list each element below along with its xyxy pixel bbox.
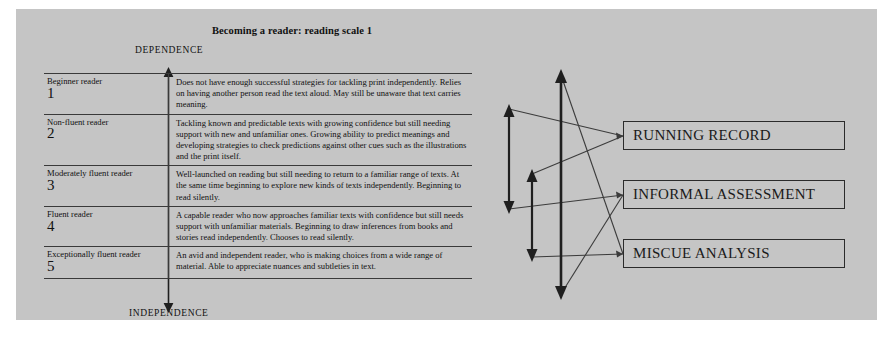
table-row: Moderately fluent reader 3 Well-launched… xyxy=(44,165,472,206)
page-root: Becoming a reader: reading scale 1 DEPEN… xyxy=(0,0,893,343)
range-arrow-full-icon xyxy=(555,69,567,300)
description-cell: A capable reader who now approaches fami… xyxy=(168,207,472,247)
range-arrow-middle-icon xyxy=(527,169,538,262)
level-cell: Exceptionally fluent reader 5 xyxy=(44,247,168,278)
level-description: Well-launched on reading but still needi… xyxy=(176,169,470,203)
figure-panel: Becoming a reader: reading scale 1 DEPEN… xyxy=(16,9,877,320)
table-row: Fluent reader 4 A capable reader who now… xyxy=(44,206,472,247)
description-cell: Well-launched on reading but still needi… xyxy=(168,166,472,206)
range-arrow-upper-icon xyxy=(504,104,515,214)
table-row: Exceptionally fluent reader 5 An avid an… xyxy=(44,246,472,279)
description-cell: Tackling known and predictable texts wit… xyxy=(168,115,472,166)
description-cell: An avid and independent reader, who is m… xyxy=(168,247,472,278)
level-number: 5 xyxy=(47,259,164,275)
table-row: Beginner reader 1 Does not have enough s… xyxy=(44,73,472,114)
level-number: 4 xyxy=(47,219,164,235)
description-cell: Does not have enough successful strategi… xyxy=(168,74,472,114)
assessment-box-label: INFORMAL ASSESSMENT xyxy=(624,187,815,202)
level-number: 1 xyxy=(47,86,164,102)
level-number: 2 xyxy=(47,126,164,142)
assessment-box-informal-assessment[interactable]: INFORMAL ASSESSMENT xyxy=(623,180,845,209)
figure-title: Becoming a reader: reading scale 1 xyxy=(212,25,372,36)
level-cell: Fluent reader 4 xyxy=(44,207,168,247)
level-cell: Non-fluent reader 2 xyxy=(44,115,168,166)
level-number: 3 xyxy=(47,178,164,194)
level-cell: Moderately fluent reader 3 xyxy=(44,166,168,206)
table-row: Non-fluent reader 2 Tackling known and p… xyxy=(44,114,472,166)
level-cell: Beginner reader 1 xyxy=(44,74,168,114)
level-description: An avid and independent reader, who is m… xyxy=(176,250,470,272)
reading-scale-table: Beginner reader 1 Does not have enough s… xyxy=(44,73,472,301)
level-description: Tackling known and predictable texts wit… xyxy=(176,118,470,163)
assessment-box-miscue-analysis[interactable]: MISCUE ANALYSIS xyxy=(623,239,845,268)
level-description: Does not have enough successful strategi… xyxy=(176,77,470,111)
level-description: A capable reader who now approaches fami… xyxy=(176,210,470,244)
assessment-box-running-record[interactable]: RUNNING RECORD xyxy=(623,121,845,150)
axis-label-dependence: DEPENDENCE xyxy=(135,45,203,55)
assessment-box-label: MISCUE ANALYSIS xyxy=(624,246,770,261)
assessment-box-label: RUNNING RECORD xyxy=(624,128,771,143)
